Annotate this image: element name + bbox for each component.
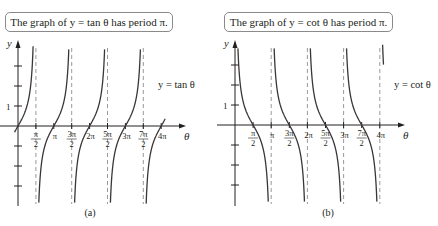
- cot-curve-branch: [383, 45, 384, 65]
- y-tick-label: 1: [6, 102, 11, 112]
- curve-label: y = tan θ: [158, 79, 195, 90]
- x-axis-arrow-icon: [179, 124, 186, 129]
- svg-text:3π: 3π: [67, 129, 76, 139]
- svg-text:5π: 5π: [103, 129, 112, 139]
- x-tick-label: 4π: [158, 131, 167, 141]
- y-axis-label: y: [6, 38, 12, 49]
- svg-text:2: 2: [323, 138, 327, 148]
- x-tick-label: π: [270, 130, 275, 140]
- x-tick-label: 2π: [86, 131, 95, 141]
- svg-text:2: 2: [360, 138, 364, 148]
- x-axis-label: θ: [184, 130, 190, 142]
- x-tick-label: 5π2: [103, 129, 113, 149]
- x-tick-label: 7π2: [138, 129, 148, 149]
- svg-text:2: 2: [105, 139, 109, 149]
- y-axis-arrow-icon: [233, 40, 238, 48]
- chart-canvas: θy1π2π3π22π5π23π7π24πy = tan θ(a) θy1π2π…: [0, 0, 438, 226]
- svg-text:2: 2: [70, 139, 74, 149]
- svg-text:2: 2: [287, 138, 291, 148]
- svg-text:π: π: [34, 129, 39, 139]
- cot-graph: θy1π2π3π22π5π23π7π24πy = cot θ(b): [217, 38, 431, 219]
- x-axis-arrow-icon: [398, 123, 405, 128]
- x-tick-label: 4π: [377, 130, 386, 140]
- y-axis-arrow-icon: [16, 40, 21, 48]
- x-axis-label: θ: [403, 129, 409, 141]
- y-axis-label: y: [223, 38, 229, 49]
- x-tick-label: 3π: [340, 130, 349, 140]
- tan-curve-branch: [15, 46, 34, 132]
- curve-label: y = cot θ: [394, 79, 431, 90]
- x-tick-label: 3π: [122, 131, 131, 141]
- svg-text:7π: 7π: [139, 129, 148, 139]
- tan-graph: θy1π2π3π22π5π23π7π24πy = tan θ(a): [0, 38, 195, 219]
- svg-text:7π: 7π: [357, 128, 366, 138]
- x-tick-label: 3π2: [67, 129, 77, 149]
- x-tick-label: 2π: [304, 130, 313, 140]
- x-tick-label: π2: [31, 129, 41, 149]
- panel-label: (a): [84, 207, 95, 219]
- svg-text:2: 2: [251, 138, 255, 148]
- y-tick-label: 1: [223, 101, 228, 111]
- panel-label: (b): [322, 207, 334, 219]
- svg-text:3π: 3π: [285, 128, 294, 138]
- x-tick-label: π: [53, 131, 58, 141]
- svg-text:2: 2: [34, 139, 38, 149]
- svg-text:5π: 5π: [321, 128, 330, 138]
- svg-text:2: 2: [141, 139, 145, 149]
